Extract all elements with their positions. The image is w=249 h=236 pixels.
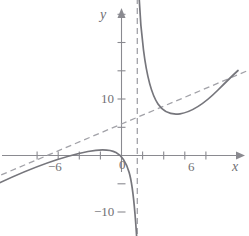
x-tick-label--6: −6 xyxy=(48,160,62,173)
graph-figure: y x 0 −6 6 10 −10 xyxy=(0,0,249,236)
y-tick-label--10: −10 xyxy=(94,205,114,218)
curve-right-branch xyxy=(139,0,238,114)
x-tick-label-6: 6 xyxy=(188,160,195,173)
origin-label: 0 xyxy=(119,158,126,171)
x-axis-label: x xyxy=(232,160,238,174)
axes-group xyxy=(2,8,245,172)
y-axis-arrow xyxy=(118,8,126,18)
chart-canvas xyxy=(0,0,249,236)
y-axis-label: y xyxy=(100,8,106,22)
y-tick-label-10: 10 xyxy=(101,92,114,105)
curve-left-branch xyxy=(0,150,137,236)
